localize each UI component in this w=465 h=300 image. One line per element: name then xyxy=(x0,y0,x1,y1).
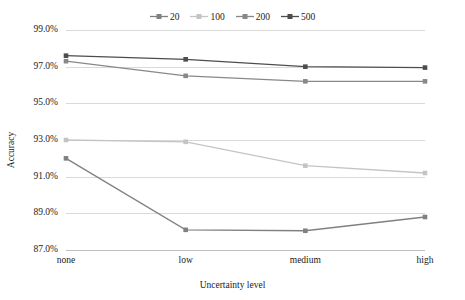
y-axis-tick-label: 99.0% xyxy=(33,25,58,35)
legend-label: 20 xyxy=(170,13,180,23)
legend-item-100[interactable]: 100 xyxy=(190,12,224,24)
legend-item-20[interactable]: 20 xyxy=(150,12,180,24)
y-axis-tick-label: 97.0% xyxy=(33,62,58,72)
x-axis-title: Uncertainty level xyxy=(0,280,465,290)
x-axis-tick-label-medium: medium xyxy=(290,256,321,266)
x-axis-tick-label-none: none xyxy=(57,256,75,266)
legend-label: 100 xyxy=(210,13,224,23)
gridline xyxy=(66,103,425,104)
legend-item-500[interactable]: 500 xyxy=(281,12,315,24)
plot-area xyxy=(66,30,425,250)
chart-legend: 20100200500 xyxy=(0,12,465,24)
gridline xyxy=(66,30,425,31)
legend-marker-icon xyxy=(190,12,208,24)
y-axis-title: Accuracy xyxy=(6,132,16,168)
y-axis-tick-label: 87.0% xyxy=(33,245,58,255)
legend-marker-icon xyxy=(281,12,299,24)
legend-marker-icon xyxy=(150,12,168,24)
x-axis-tick-label-low: low xyxy=(179,256,193,266)
gridline xyxy=(66,177,425,178)
x-axis-tick-label-high: high xyxy=(417,256,434,266)
y-axis-tick-label: 95.0% xyxy=(33,99,58,109)
y-axis-tick-label: 91.0% xyxy=(33,172,58,182)
legend-item-200[interactable]: 200 xyxy=(236,12,270,24)
gridline xyxy=(66,140,425,141)
gridline xyxy=(66,250,425,251)
legend-marker-icon xyxy=(236,12,254,24)
y-axis-tick-label: 89.0% xyxy=(33,209,58,219)
legend-label: 500 xyxy=(301,13,315,23)
line-chart: 20100200500 99.0%97.0%95.0%93.0%91.0%89.… xyxy=(0,0,465,300)
legend-label: 200 xyxy=(256,13,270,23)
gridline xyxy=(66,213,425,214)
y-axis-tick-label: 93.0% xyxy=(33,135,58,145)
gridline xyxy=(66,67,425,68)
